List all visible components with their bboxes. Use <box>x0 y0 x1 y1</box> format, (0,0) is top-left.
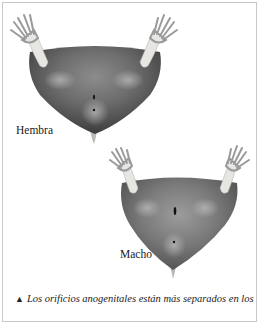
figure-caption: ▲Los orificios anogenitales están más se… <box>15 293 254 304</box>
anal-opening-mark <box>173 241 175 243</box>
genital-opening-mark <box>93 94 95 99</box>
label-female: Hembra <box>16 124 53 136</box>
label-male: Macho <box>120 248 152 260</box>
anal-opening-mark <box>93 109 95 111</box>
triangle-marker-icon: ▲ <box>15 294 24 304</box>
genital-opening-mark <box>174 207 177 215</box>
caption-text: Los orificios anogenitales están más sep… <box>27 293 254 304</box>
